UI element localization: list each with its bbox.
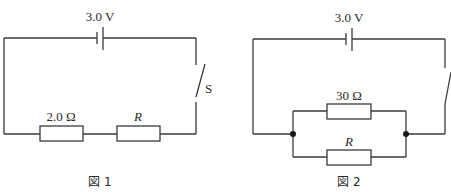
resistor-label-2ohm: 2.0 Ω xyxy=(46,109,75,124)
figure-2-circuit: 3.0 V 30 Ω R 図 2 xyxy=(253,10,451,189)
switch-label: S xyxy=(205,81,212,96)
battery-voltage-label: 3.0 V xyxy=(86,9,115,24)
figure-caption: 図 1 xyxy=(88,175,111,189)
figure-caption: 図 2 xyxy=(337,175,360,189)
junction-dot xyxy=(403,131,409,137)
resistor-2ohm xyxy=(40,126,83,141)
resistor-30ohm xyxy=(327,104,371,119)
resistor-r xyxy=(327,150,371,165)
battery-icon xyxy=(346,28,352,51)
switch-icon xyxy=(196,64,205,97)
resistor-label-r: R xyxy=(133,109,142,124)
resistor-label-r: R xyxy=(344,134,353,149)
battery-icon xyxy=(97,27,103,50)
figure-1-circuit: 3.0 V S 2.0 Ω R 図 1 xyxy=(4,9,212,189)
junction-dot xyxy=(290,131,296,137)
switch-icon xyxy=(445,72,451,104)
resistor-label-30ohm: 30 Ω xyxy=(336,88,362,103)
resistor-r xyxy=(117,126,160,141)
battery-voltage-label: 3.0 V xyxy=(335,10,364,25)
